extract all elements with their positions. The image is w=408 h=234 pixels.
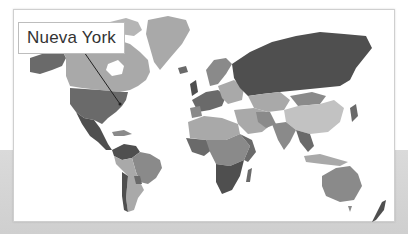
region-new-zealand[interactable] (372, 200, 386, 222)
region-madagascar[interactable] (246, 168, 252, 182)
region-north-africa[interactable] (188, 116, 240, 140)
region-iberia[interactable] (190, 106, 202, 118)
region-usa[interactable] (70, 88, 128, 124)
region-russia[interactable] (232, 32, 372, 96)
region-japan[interactable] (350, 104, 358, 122)
region-australia[interactable] (322, 166, 362, 202)
region-tasmania[interactable] (348, 206, 352, 212)
new-york-marker[interactable] (119, 103, 122, 106)
region-iceland[interactable] (178, 66, 188, 74)
region-caribbean[interactable] (112, 130, 132, 136)
callout-label: Nueva York (18, 22, 125, 54)
region-scandinavia[interactable] (206, 58, 232, 86)
callout-label-text: Nueva York (27, 28, 116, 48)
region-greenland[interactable] (146, 16, 190, 70)
region-uk[interactable] (190, 80, 198, 96)
region-indonesia[interactable] (304, 154, 348, 166)
